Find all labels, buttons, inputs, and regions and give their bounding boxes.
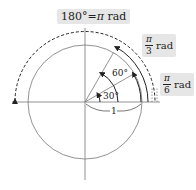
angle-30-label: 30° [103, 91, 119, 101]
label-pi-over-3: π 3 rad [142, 34, 176, 57]
radius-label: 1 [111, 106, 117, 116]
label-pi-over-6: π 6 rad [160, 73, 194, 96]
pi-text: π [97, 11, 104, 22]
unit-circle-diagram: 180° = π rad π 3 rad π 6 rad 60° 30° 1 [0, 0, 196, 190]
eq-text: = [88, 11, 97, 22]
arc-30deg [98, 95, 100, 103]
rad-text: rad [156, 41, 173, 51]
deg-text: 180° [61, 11, 88, 22]
fraction-pi-3: π 3 [145, 35, 153, 56]
rad-text: rad [104, 11, 126, 22]
fraction-pi-6: π 6 [163, 74, 171, 95]
angle-60-label: 60° [112, 68, 128, 78]
rad-text: rad [174, 80, 191, 90]
label-180-equals-pi: 180° = π rad [57, 9, 130, 24]
